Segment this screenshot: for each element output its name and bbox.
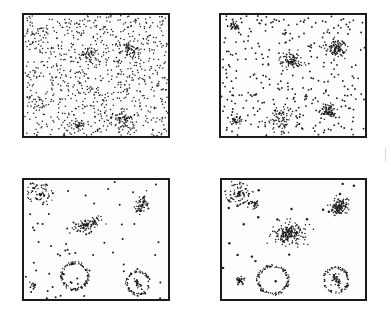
cluster-blob — [236, 276, 245, 286]
cluster-blob — [227, 19, 239, 29]
panel-2-dots — [221, 15, 365, 136]
cluster-blob — [134, 278, 143, 290]
panel-4-dots — [222, 180, 365, 299]
cluster-blob — [29, 281, 36, 289]
cluster-spiral — [27, 182, 54, 205]
cluster-blob — [329, 273, 341, 289]
panel-1-dots — [24, 15, 168, 136]
panel-3 — [22, 178, 170, 301]
cluster-ring — [256, 264, 290, 296]
cluster-blob — [278, 49, 306, 70]
cluster-blob — [266, 218, 314, 248]
cluster-ring — [323, 266, 349, 294]
cluster-blob — [327, 195, 350, 216]
panel-2 — [219, 13, 367, 138]
panel-4 — [220, 178, 367, 301]
cluster-blob — [134, 190, 149, 215]
panel-3-dots — [24, 180, 168, 299]
panel-1 — [22, 13, 170, 138]
cluster-blob — [30, 27, 48, 36]
cluster-blob — [69, 215, 107, 233]
scan-artifact-line — [385, 148, 386, 162]
cluster-blob — [321, 36, 349, 61]
cluster-blob — [261, 106, 298, 135]
cluster-ring — [60, 261, 90, 291]
